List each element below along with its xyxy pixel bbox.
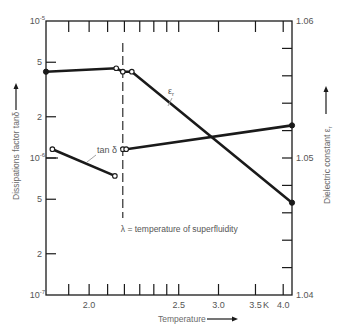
data-point [129,69,134,74]
data-point [121,69,126,74]
up-arrow-head-icon [14,83,19,89]
series-label-epsilon: εr [168,86,174,97]
left-tick-label: 5 [37,194,42,204]
x-tick-label: 2.5 [172,300,185,310]
tan-delta-leader-line [87,155,96,162]
left-tick-label: 10-6 [30,152,46,163]
x-axis-unit: K [263,300,269,310]
x-tick-label: 3.5 [249,300,262,310]
right-arrow-head-icon [232,317,238,322]
lambda-annotation: λ = temperature of superfluidity [121,43,239,234]
left-tick-label: 5 [37,57,42,67]
data-point [50,147,55,152]
x-axis-title: Temperature [158,314,206,324]
right-tick-label: 1.04 [296,290,314,300]
x-axis-ticks: 2.02.53.03.54.0 [69,21,290,310]
right-axis-ticks: 1.061.051.04 [282,16,314,300]
data-point [289,200,294,205]
right-tick-label: 1.05 [296,153,314,163]
left-tick-exponent: -7 [40,289,46,295]
x-tick-label: 3.0 [212,300,225,310]
data-point [114,66,119,71]
left-axis-title: Dissipations factor tanδ [11,111,21,200]
right-axis-title: Dielectric constant εr [322,126,333,204]
right-tick-label: 1.06 [296,16,314,26]
left-tick-exponent: -6 [40,152,46,158]
x-tick-label: 4.0 [277,300,290,310]
lambda-note: λ = temperature of superfluidity [121,224,239,234]
data-point [124,147,129,152]
up-arrow-head-icon-right [324,86,329,92]
data-point [113,174,118,179]
left-tick-label: 2 [37,112,42,122]
plot-frame [46,21,292,295]
data-point [289,123,294,128]
series-label-tan-delta: tan δ [97,145,117,155]
left-tick-label: 10-7 [30,289,46,300]
x-tick-label: 2.0 [83,300,96,310]
left-tick-exponent: -5 [40,15,46,21]
axis-titles: Temperature K Dissipations factor tanδ D… [11,83,333,324]
left-axis-ticks: 10-55210-65210-7 [30,15,58,300]
series-line-tan-delta [123,125,292,149]
chart: 2.02.53.03.54.0 10-55210-65210-7 1.061.0… [0,0,337,332]
series-labels: εr tan δ [87,86,174,162]
data-point [43,69,48,74]
left-tick-label: 10-5 [30,15,46,26]
plot-border [46,21,292,295]
left-tick-label: 2 [37,249,42,259]
